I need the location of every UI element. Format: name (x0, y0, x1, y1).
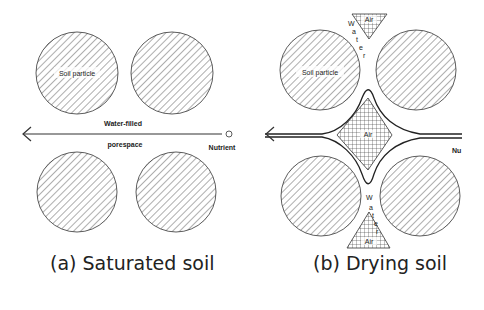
soil-particle (131, 32, 213, 114)
svg-text:e: e (374, 220, 378, 227)
caption-saturated-soil: (a) Saturated soil (50, 252, 214, 274)
svg-text:t: t (372, 212, 374, 219)
air-label-bottom: Air (365, 238, 374, 245)
soil-particle (281, 156, 361, 236)
porespace-label: porespace (107, 141, 142, 149)
soil-particle (37, 152, 117, 232)
air-label-top: Air (365, 16, 374, 23)
soil-particle (380, 156, 460, 236)
caption-drying-soil: (b) Drying soil (313, 252, 447, 274)
soil-particle-label: Soil particle (59, 70, 95, 78)
svg-text:r: r (363, 52, 366, 59)
soil-particle (136, 152, 216, 232)
air-label-center: Air (364, 131, 373, 138)
soil-particle-label: Soil particle (302, 69, 338, 77)
nutrient-label: Nutrient (209, 144, 237, 151)
water-filled-label: Water-filled (104, 120, 142, 127)
panel-saturated-soil: Soil particle Water-filled porespace Nut… (23, 32, 236, 232)
svg-text:a: a (352, 28, 356, 35)
svg-text:t: t (356, 36, 358, 43)
nutrient-dot-icon (226, 131, 232, 137)
svg-text:a: a (369, 204, 373, 211)
panel-drying-soil: Soil particle Air W a t e r Air Nu Air W… (265, 14, 462, 248)
svg-text:W: W (348, 20, 355, 27)
svg-text:e: e (359, 44, 363, 51)
svg-text:W: W (366, 194, 373, 201)
soil-particle (376, 30, 456, 110)
nutrient-label: Nu (452, 147, 461, 154)
